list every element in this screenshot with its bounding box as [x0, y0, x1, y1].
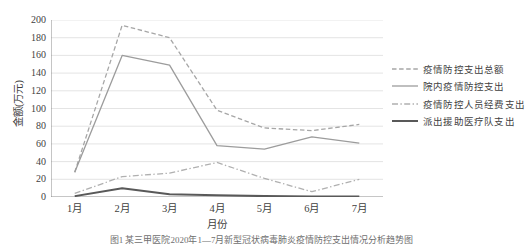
series-line-4: [75, 188, 360, 196]
y-axis-tick-label: 180: [2, 33, 46, 43]
legend-item-4[interactable]: 派出援助医疗队支出: [392, 113, 523, 131]
y-axis-tick-label: 200: [2, 15, 46, 25]
x-axis-title: 月份: [51, 216, 383, 231]
legend-line-swatch: [392, 64, 418, 74]
y-axis-tick-label: 120: [2, 86, 46, 96]
legend-label: 派出援助医疗队支出: [423, 114, 515, 128]
y-axis-tick-label: 140: [2, 68, 46, 78]
chart-legend: 疫情防控支出总额院内疫情防控支出疫情防控人员经费支出派出援助医疗队支出: [392, 60, 523, 130]
legend-item-3[interactable]: 疫情防控人员经费支出: [392, 95, 523, 113]
x-axis-tick-labels: 1月2月3月4月5月6月7月: [51, 200, 383, 216]
legend-item-2[interactable]: 院内疫情防控支出: [392, 78, 523, 96]
legend-label: 疫情防控人员经费支出: [423, 97, 525, 111]
legend-line-swatch: [392, 116, 418, 126]
y-axis-tick-label: 60: [2, 139, 46, 149]
y-axis-tick-label: 20: [2, 174, 46, 184]
y-axis-tick-labels: 200180160140120100806040200: [0, 0, 49, 243]
plot-area: [51, 20, 383, 197]
legend-line-swatch: [392, 81, 418, 91]
x-axis-tick-label: 1月: [51, 200, 99, 215]
figure-caption: 图1 某三甲医院2020年1—7月新型冠状病毒肺炎疫情防控支出情况分析趋势图: [0, 233, 523, 246]
x-axis-tick-label: 2月: [98, 200, 146, 215]
y-axis-tick-label: 80: [2, 121, 46, 131]
legend-label: 院内疫情防控支出: [423, 79, 505, 93]
chart-canvas: [51, 20, 383, 197]
x-axis-tick-label: 5月: [240, 200, 288, 215]
y-axis-tick-label: 40: [2, 157, 46, 167]
x-axis-tick-label: 4月: [193, 200, 241, 215]
legend-label: 疫情防控支出总额: [423, 62, 505, 76]
x-axis-tick-label: 7月: [335, 200, 383, 215]
legend-line-swatch: [392, 99, 418, 109]
x-axis-tick-label: 6月: [288, 200, 336, 215]
y-axis-tick-label: 100: [2, 104, 46, 114]
y-axis-tick-label: 160: [2, 50, 46, 60]
legend-item-1[interactable]: 疫情防控支出总额: [392, 60, 523, 78]
series-line-1: [75, 25, 360, 172]
x-axis-tick-label: 3月: [146, 200, 194, 215]
y-axis-tick-label: 0: [2, 192, 46, 202]
